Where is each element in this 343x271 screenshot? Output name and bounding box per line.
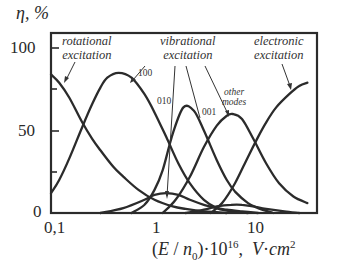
curves-group	[51, 73, 307, 213]
annotation-rotational: rotational excitation	[62, 34, 112, 62]
annotation-electronic: electronic excitation	[254, 34, 304, 62]
y-ticks	[51, 48, 59, 172]
arrowhead-rotational	[64, 76, 69, 83]
x-tick-label-1: 1	[152, 218, 161, 238]
annotation-other-modes: other modes	[222, 87, 246, 107]
y-tick-label-50: 50	[18, 121, 35, 141]
annotation-vibrational-line2: excitation	[160, 48, 216, 62]
annotation-vibrational-line1: vibrational	[160, 34, 216, 48]
annotation-010: 010	[157, 96, 171, 106]
y-tick-label-100: 100	[10, 38, 36, 58]
annotation-100: 100	[138, 68, 152, 78]
annotation-rotational-line1: rotational	[62, 34, 112, 48]
curve-rotational-excitation	[51, 74, 227, 213]
arrowhead-electronic	[287, 83, 292, 90]
annotation-electronic-line2: excitation	[254, 48, 304, 62]
x-tick-label-10: 10	[247, 218, 264, 238]
annotation-rotational-line2: excitation	[62, 48, 112, 62]
annotation-other-line2: modes	[222, 97, 246, 107]
annotation-other-line1: other	[222, 87, 246, 97]
y-axis-label: η, %	[16, 3, 49, 24]
arrowhead-010	[165, 191, 169, 199]
annotation-electronic-line1: electronic	[254, 34, 304, 48]
annotation-arrows	[66, 62, 290, 196]
y-tick-label-0: 0	[33, 202, 42, 222]
x-tick-label-0-1: 0,1	[44, 218, 65, 238]
arrow-electronic	[282, 64, 290, 86]
annotation-001: 001	[202, 107, 216, 117]
x-axis-title: (E / n0)·1016, V·cm2	[152, 238, 296, 262]
annotation-vibrational: vibrational excitation	[160, 34, 216, 62]
